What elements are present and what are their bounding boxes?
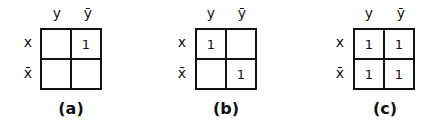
cell-xbar-y: 1 xyxy=(354,59,384,89)
cell-xbar-y xyxy=(41,59,71,89)
caption: (b) xyxy=(201,99,251,118)
caption: (c) xyxy=(360,99,410,118)
cell-xbar-ybar: 1 xyxy=(384,59,414,89)
cell-x-y: 1 xyxy=(196,29,226,59)
row-label-x-bar: x̄ xyxy=(333,65,347,81)
col-label-y-bar: ȳ xyxy=(391,5,411,21)
map-grid: 1 1 1 1 xyxy=(353,28,415,90)
cell-x-y: 1 xyxy=(354,29,384,59)
cell-x-ybar xyxy=(226,29,256,59)
cell-x-ybar: 1 xyxy=(71,29,101,59)
cell-x-ybar: 1 xyxy=(384,29,414,59)
map-grid: 1 1 xyxy=(195,28,257,90)
row-label-x-bar: x̄ xyxy=(175,65,189,81)
col-label-y-bar: ȳ xyxy=(232,5,252,21)
cell-xbar-ybar xyxy=(71,59,101,89)
row-label-x-bar: x̄ xyxy=(21,65,35,81)
row-label-x: x xyxy=(175,34,189,50)
row-label-x: x xyxy=(333,34,347,50)
col-label-y: y xyxy=(201,5,221,21)
col-label-y: y xyxy=(359,5,379,21)
cell-xbar-ybar: 1 xyxy=(226,59,256,89)
col-label-y-bar: ȳ xyxy=(78,5,98,21)
cell-xbar-y xyxy=(196,59,226,89)
cell-x-y xyxy=(41,29,71,59)
caption: (a) xyxy=(46,99,96,118)
map-grid: 1 xyxy=(40,28,102,90)
row-label-x: x xyxy=(21,34,35,50)
col-label-y: y xyxy=(47,5,67,21)
